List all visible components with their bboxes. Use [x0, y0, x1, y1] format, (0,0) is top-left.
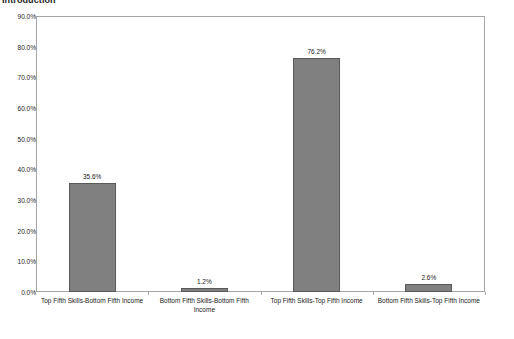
x-axis-tick-mark	[261, 292, 262, 295]
x-axis-category-label: Bottom Fifth Skills-Bottom Fifth Income	[152, 297, 256, 314]
bar-data-label: 1.2%	[174, 278, 234, 286]
x-axis-category-label: Bottom Fifth Skills-Top Fifth Income	[377, 297, 481, 306]
y-axis-tick-label: 0.0%	[2, 289, 36, 296]
y-axis-tick-label: 70.0%	[2, 74, 36, 81]
x-axis-category-label: Top Fifth Skills-Top Fifth Income	[265, 297, 369, 306]
y-axis-tick-label: 40.0%	[2, 166, 36, 173]
y-axis-tick-mark	[33, 139, 36, 140]
y-axis-tick-label: 90.0%	[2, 13, 36, 20]
y-axis-tick-mark	[33, 16, 36, 17]
x-axis-tick-mark	[373, 292, 374, 295]
bar-data-label: 2.6%	[399, 274, 459, 282]
x-axis-tick-mark	[148, 292, 149, 295]
bar-chart: 0.0%10.0%20.0%30.0%40.0%50.0%60.0%70.0%8…	[0, 0, 514, 339]
y-axis-tick-mark	[33, 77, 36, 78]
y-axis-tick-label: 50.0%	[2, 135, 36, 142]
y-axis-tick-label: 60.0%	[2, 105, 36, 112]
y-axis-tick-mark	[33, 231, 36, 232]
y-axis-tick-label: 10.0%	[2, 258, 36, 265]
x-axis-tick-mark	[485, 292, 486, 295]
y-axis-tick-mark	[33, 108, 36, 109]
bar-data-label: 35.6%	[62, 173, 122, 181]
y-axis-tick-mark	[33, 169, 36, 170]
bar	[69, 183, 116, 292]
y-axis-tick-mark	[33, 200, 36, 201]
y-axis-tick-mark	[33, 261, 36, 262]
bar	[181, 288, 228, 292]
bar	[293, 58, 340, 292]
y-axis-tick-label: 30.0%	[2, 197, 36, 204]
x-axis-category-label: Top Fifth Skills-Bottom Fifth Income	[40, 297, 144, 306]
bar	[405, 284, 452, 292]
y-axis-tick-label: 20.0%	[2, 227, 36, 234]
y-axis-tick-mark	[33, 47, 36, 48]
y-axis: 0.0%10.0%20.0%30.0%40.0%50.0%60.0%70.0%8…	[0, 0, 36, 339]
y-axis-tick-label: 80.0%	[2, 43, 36, 50]
bar-data-label: 76.2%	[287, 48, 347, 56]
y-axis-tick-mark	[33, 292, 36, 293]
